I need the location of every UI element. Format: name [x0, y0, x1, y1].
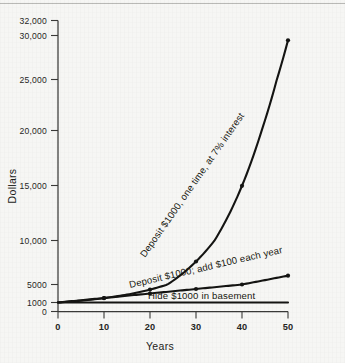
y-tick-label-15000: 15,000: [20, 181, 48, 191]
x-tick-label-50: 50: [283, 322, 294, 332]
y-tick-label-10000: 10,000: [20, 236, 48, 246]
y-tick-label-5000: 5000: [27, 280, 47, 290]
data-point-marker: [286, 38, 290, 42]
x-tick-label-10: 10: [99, 322, 110, 332]
x-tick-label-30: 30: [191, 322, 202, 332]
y-tick-label-30000: 30,000: [20, 31, 48, 41]
series-annotations: Deposit $1000, one time, at 7% interest …: [128, 110, 284, 301]
data-point-marker: [286, 274, 290, 278]
chart-figure: 32,000 30,000 25,000 20,000 15,000 10,00…: [0, 0, 345, 363]
series-label-exponential: Deposit $1000, one time, at 7% interest: [138, 110, 247, 259]
x-tick-marks: [58, 312, 288, 319]
x-tick-label-40: 40: [237, 322, 248, 332]
data-point-marker: [102, 296, 106, 300]
series-layer: [58, 38, 290, 302]
series-line-0: [58, 40, 288, 302]
x-tick-label-0: 0: [55, 322, 60, 332]
chart-plot-area: 32,000 30,000 25,000 20,000 15,000 10,00…: [0, 0, 345, 363]
y-tick-label-25000: 25,000: [20, 75, 48, 85]
y-tick-label-20000: 20,000: [20, 126, 48, 136]
series-label-flat: Hide $1000 in basement: [148, 290, 255, 301]
x-tick-label-20: 20: [145, 322, 156, 332]
y-tick-marks: [51, 21, 58, 312]
data-point-marker: [240, 184, 244, 188]
x-axis-title: Years: [146, 340, 174, 352]
y-tick-label-0: 0: [42, 307, 47, 317]
y-axis-title: Dollars: [6, 169, 18, 204]
y-tick-label-32000: 32,000: [20, 16, 48, 26]
data-point-marker: [240, 282, 244, 286]
